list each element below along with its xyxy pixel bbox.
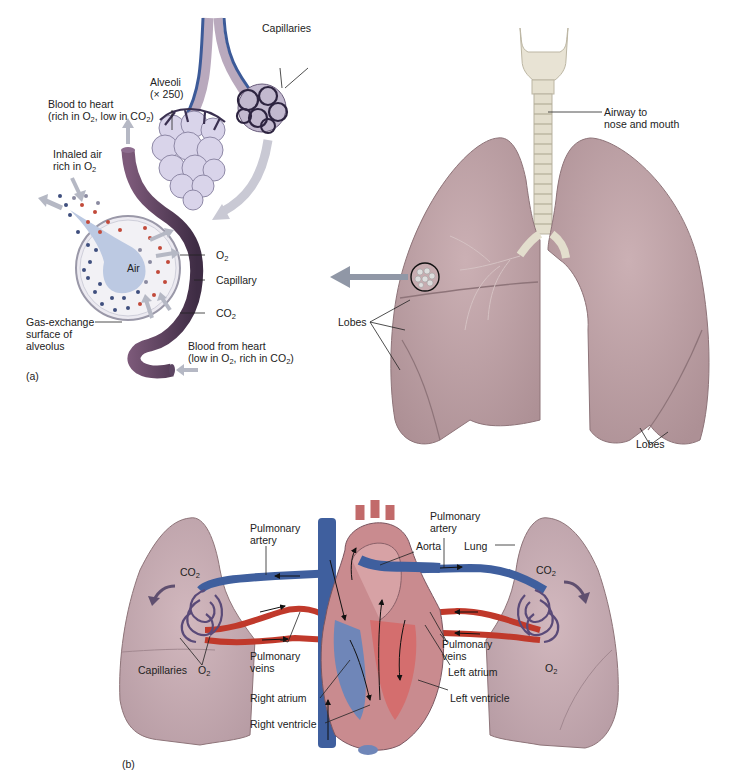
label-pulmonary-artery-right: Pulmonary artery [430, 510, 480, 534]
label-o2-a: O2 [216, 249, 228, 261]
label-alveoli-line1: Alveoli [150, 76, 184, 88]
label-inhaled-line2: rich in O2 [53, 160, 102, 172]
label-blood-from-heart: Blood from heart (low in O2, rich in CO2… [188, 340, 294, 364]
subscript: 2 [92, 165, 96, 174]
label-pa-left-line1: Pulmonary [250, 522, 300, 534]
label-blood-to-heart: Blood to heart (rich in O2, low in CO2) [48, 98, 154, 122]
label-lobes-left: Lobes [338, 316, 367, 328]
panel-a-lungs [330, 28, 709, 445]
text-fragment: rich in O [53, 160, 92, 172]
respiratory-figure: Capillaries Alveoli (× 250) Blood to hea… [0, 0, 737, 780]
label-blood-to-heart-line2: (rich in O2, low in CO2) [48, 110, 154, 122]
label-pv-left-line2: veins [250, 662, 300, 674]
text-fragment: ) [290, 352, 294, 364]
label-pv-left-line1: Pulmonary [250, 650, 300, 662]
alveoli-cluster [152, 111, 225, 210]
text-fragment: CO [216, 307, 232, 319]
text-fragment: O [545, 662, 553, 674]
subscript: 2 [232, 312, 236, 321]
subscript: 2 [224, 254, 228, 263]
label-pulmonary-veins-left: Pulmonary veins [250, 650, 300, 674]
label-blood-from-heart-line1: Blood from heart [188, 340, 294, 352]
label-inhaled-line1: Inhaled air [53, 148, 102, 160]
label-pa-right-line1: Pulmonary [430, 510, 480, 522]
label-blood-to-heart-line1: Blood to heart [48, 98, 154, 110]
label-gas-exchange-line2: surface of [26, 328, 94, 340]
label-left-ventricle: Left ventricle [450, 692, 510, 704]
label-lobes-right: Lobes [636, 438, 665, 450]
label-inhaled-air: Inhaled air rich in O2 [53, 148, 102, 172]
text-fragment: CO [180, 566, 196, 578]
label-pa-left-line2: artery [250, 534, 300, 546]
label-right-ventricle: Right ventricle [250, 718, 317, 730]
label-airway-line2: nose and mouth [604, 118, 679, 130]
text-fragment: O [216, 249, 224, 261]
label-aorta: Aorta [416, 540, 441, 552]
text-fragment: ) [150, 110, 154, 122]
subscript: 2 [552, 569, 556, 578]
label-capillary: Capillary [216, 274, 257, 286]
panel-b-circulation [120, 500, 619, 755]
label-left-atrium: Left atrium [448, 666, 498, 678]
text-fragment: CO [536, 564, 552, 576]
label-capillaries-a: Capillaries [262, 22, 311, 34]
text-fragment: (rich in O [48, 110, 91, 122]
label-airway: Airway to nose and mouth [604, 106, 679, 130]
panel-tag-b: (b) [122, 758, 135, 770]
label-alveoli-line2: (× 250) [150, 88, 184, 100]
label-co2-right: CO2 [536, 564, 556, 576]
label-airway-line1: Airway to [604, 106, 679, 118]
label-pulmonary-veins-right: Pulmonary veins [442, 638, 492, 662]
text-fragment: , low in CO [95, 110, 146, 122]
subscript: 2 [206, 669, 210, 678]
label-air: Air [127, 262, 140, 274]
text-fragment: (low in O [188, 352, 229, 364]
label-o2-left: O2 [198, 664, 210, 676]
label-gas-exchange-line3: alveolus [26, 340, 94, 352]
label-capillaries-b: Capillaries [138, 664, 187, 676]
subscript: 2 [553, 667, 557, 676]
label-alveoli: Alveoli (× 250) [150, 76, 184, 100]
text-fragment: , rich in CO [234, 352, 287, 364]
capillary-cluster [237, 84, 287, 133]
label-blood-from-heart-line2: (low in O2, rich in CO2) [188, 352, 294, 364]
label-co2-a: CO2 [216, 307, 236, 319]
label-right-atrium: Right atrium [250, 692, 307, 704]
label-gas-exchange-surface: Gas-exchange surface of alveolus [26, 316, 94, 352]
subscript: 2 [196, 571, 200, 580]
label-pa-right-line2: artery [430, 522, 480, 534]
label-co2-left: CO2 [180, 566, 200, 578]
text-fragment: O [198, 664, 206, 676]
label-pv-right-line1: Pulmonary [442, 638, 492, 650]
label-o2-right: O2 [545, 662, 557, 674]
label-gas-exchange-line1: Gas-exchange [26, 316, 94, 328]
label-pv-right-line2: veins [442, 650, 492, 662]
label-pulmonary-artery-left: Pulmonary artery [250, 522, 300, 546]
label-lung: Lung [464, 540, 487, 552]
panel-tag-a: (a) [26, 370, 39, 382]
